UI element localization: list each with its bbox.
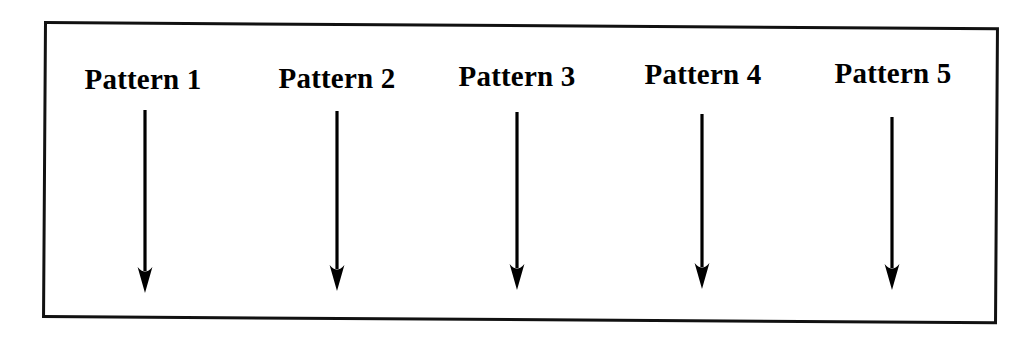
diagram-frame bbox=[42, 21, 999, 324]
figure-root: Pattern 1 Pattern 2 Pattern 3 Pattern 4 … bbox=[0, 0, 1032, 345]
